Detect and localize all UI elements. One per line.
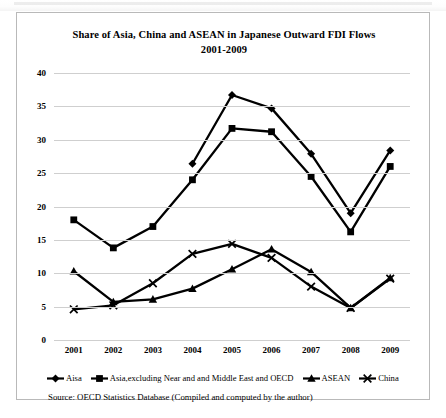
square-marker	[387, 163, 394, 170]
chart-legend: AisaAsia,excluding Near and and Middle E…	[47, 370, 427, 386]
x-axis-tick-label: 2007	[291, 346, 331, 355]
x-axis-tick-label: 2001	[54, 346, 94, 355]
legend-marker	[303, 373, 320, 384]
legend-item[interactable]: Aisa	[47, 373, 82, 384]
x-axis-tick-label: 2006	[252, 346, 292, 355]
y-axis-tick-labels: 0510152025303540	[17, 73, 50, 340]
square-marker	[96, 375, 103, 382]
page-bottom-margin	[0, 402, 446, 418]
y-axis-tick-label: 20	[20, 203, 46, 212]
gridline	[54, 73, 410, 74]
chart-title-line-2: 2001-2009	[17, 42, 431, 57]
triangle-marker	[267, 245, 275, 253]
cross-marker	[307, 283, 315, 291]
gridline	[54, 106, 410, 107]
y-axis-tick-label: 10	[20, 269, 46, 278]
legend-marker	[91, 373, 108, 384]
square-marker	[347, 228, 354, 235]
square-marker	[110, 244, 117, 251]
chart-title: Share of Asia, China and ASEAN in Japane…	[17, 27, 431, 57]
y-axis-tick-label: 15	[20, 236, 46, 245]
series-line	[74, 249, 390, 308]
square-marker	[268, 128, 275, 135]
legend-label: Asia,excluding Near and and Middle East …	[110, 373, 294, 383]
x-axis-tick-label: 2004	[172, 346, 212, 355]
legend-marker	[47, 373, 64, 384]
gridline	[54, 273, 410, 274]
chart-figure: Share of Asia, China and ASEAN in Japane…	[16, 12, 430, 400]
x-axis-tick-label: 2002	[93, 346, 133, 355]
legend-item[interactable]: Asia,excluding Near and and Middle East …	[91, 373, 294, 384]
plot-area	[54, 73, 410, 340]
y-axis-tick-label: 0	[20, 336, 46, 345]
cross-marker	[149, 279, 157, 287]
square-marker	[189, 176, 196, 183]
series-line	[74, 128, 390, 247]
legend-label: Aisa	[66, 373, 82, 383]
legend-item[interactable]: China	[359, 373, 399, 384]
chart-title-line-1: Share of Asia, China and ASEAN in Japane…	[17, 27, 431, 42]
gridline	[54, 140, 410, 141]
diamond-marker	[52, 374, 60, 382]
scan-artifact-line	[14, 2, 432, 5]
gridline	[54, 307, 410, 308]
scan-artifact-band	[0, 0, 446, 11]
x-axis-tick-label: 2005	[212, 346, 252, 355]
square-marker	[229, 125, 236, 132]
x-axis-tick-label: 2003	[133, 346, 173, 355]
y-axis-tick-label: 30	[20, 136, 46, 145]
y-axis-tick-label: 40	[20, 69, 46, 78]
x-axis-tick-label: 2009	[370, 346, 410, 355]
square-marker	[70, 216, 77, 223]
y-axis-tick-label: 25	[20, 169, 46, 178]
legend-label: ASEAN	[322, 373, 351, 383]
gridline	[54, 207, 410, 208]
gridline	[54, 240, 410, 241]
gridline	[54, 173, 410, 174]
square-marker	[149, 223, 156, 230]
legend-marker	[359, 373, 376, 384]
gridline	[54, 340, 410, 341]
y-axis-tick-label: 35	[20, 102, 46, 111]
legend-item[interactable]: ASEAN	[303, 373, 351, 384]
x-axis-tick-label: 2008	[331, 346, 371, 355]
y-axis-tick-label: 5	[20, 303, 46, 312]
legend-label: China	[378, 373, 399, 383]
